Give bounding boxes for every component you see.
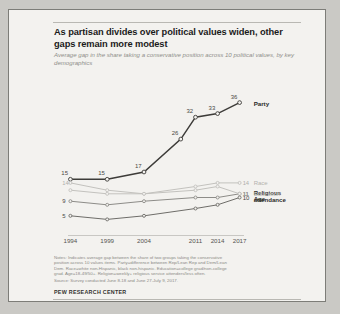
- data-point: [216, 203, 219, 206]
- line-series-race: [70, 183, 239, 194]
- data-point: [143, 214, 146, 217]
- data-point: [194, 207, 197, 210]
- series-label-age: Age: [254, 195, 266, 202]
- data-point: [238, 192, 241, 195]
- x-tick-2017: 2017: [233, 237, 247, 244]
- chart-subtitle: Average gap in the share taking a conser…: [54, 51, 299, 67]
- top-divider: [53, 22, 301, 23]
- bottom-divider: [53, 299, 301, 300]
- line-series-party: [70, 103, 239, 180]
- data-point: [105, 177, 109, 181]
- data-point: [216, 181, 219, 184]
- data-point: [143, 192, 146, 195]
- data-point: [69, 214, 72, 217]
- x-tick-2004: 2004: [137, 237, 151, 244]
- series-end-value: 10: [243, 195, 250, 201]
- chart-title: As partisan divides over political value…: [54, 27, 304, 50]
- point-value-label: 33: [209, 105, 216, 111]
- data-point: [179, 137, 183, 141]
- series-label-party: Party: [254, 100, 269, 107]
- chart-notes: Notes: Indicates average gap between the…: [54, 255, 302, 277]
- data-point: [69, 181, 72, 184]
- point-value-label: 17: [135, 163, 142, 169]
- series-start-value: 9: [62, 198, 65, 204]
- data-point: [69, 189, 72, 192]
- data-point: [194, 115, 198, 119]
- note-line-4: grad. Age=18-49/50+. Religion=weekly+ re…: [54, 271, 302, 276]
- series-start-value: 5: [62, 213, 65, 219]
- x-tick-1994: 1994: [63, 237, 77, 244]
- data-point: [194, 185, 197, 188]
- x-tick-2011: 2011: [189, 237, 202, 244]
- data-point: [106, 218, 109, 221]
- point-value-label: 36: [231, 94, 238, 100]
- x-axis-tick-labels: 199419992004201120142017: [53, 237, 303, 247]
- data-point: [69, 200, 72, 203]
- data-point: [142, 170, 146, 174]
- data-point: [238, 101, 242, 105]
- data-point: [216, 185, 219, 188]
- data-point: [238, 196, 241, 199]
- point-value-label: 26: [172, 130, 179, 136]
- chart-source: Source: Survey conducted June 8-18 and J…: [54, 278, 302, 283]
- data-point: [216, 112, 220, 116]
- data-point: [216, 196, 219, 199]
- data-point: [106, 192, 109, 195]
- data-point: [194, 189, 197, 192]
- series-start-value: 14: [62, 180, 68, 186]
- series-label-race: Race: [254, 180, 268, 186]
- data-point: [194, 196, 197, 199]
- series-end-value: 14: [243, 180, 249, 186]
- screenshot-background: As partisan divides over political value…: [0, 0, 340, 314]
- data-point: [106, 203, 109, 206]
- point-value-label: 15: [61, 170, 68, 176]
- x-axis-line: [68, 235, 243, 236]
- chart-card: As partisan divides over political value…: [8, 9, 326, 302]
- data-point: [143, 200, 146, 203]
- point-value-label: 32: [186, 108, 193, 114]
- data-point: [69, 177, 73, 181]
- point-value-label: 15: [98, 170, 105, 176]
- x-tick-2014: 2014: [211, 237, 225, 244]
- data-point: [238, 181, 241, 184]
- pew-research-center-footer: PEW RESEARCH CENTER: [54, 289, 126, 295]
- data-point: [106, 189, 109, 192]
- x-tick-1999: 1999: [100, 237, 114, 244]
- line-series-religious-attendance: [70, 194, 239, 205]
